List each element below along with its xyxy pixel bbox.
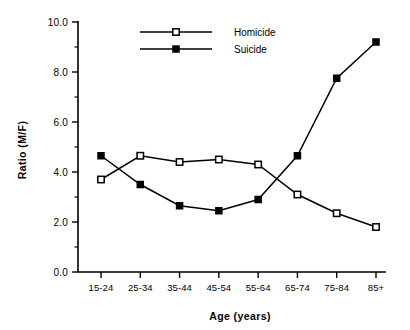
data-point-homicide: [98, 176, 104, 182]
y-tick-label: 6.0: [53, 117, 68, 128]
chart-axes: [78, 21, 386, 272]
y-tick-label: 2.0: [53, 217, 68, 228]
y-tick-label: 0.0: [53, 267, 68, 278]
data-point-homicide: [216, 156, 222, 162]
y-axis-label: Ratio (M/F): [16, 121, 28, 180]
data-point-suicide: [294, 153, 300, 159]
chart-figure: Ratio (M/F) Age (years) 0.02.04.06.08.01…: [0, 0, 410, 330]
data-point-suicide: [98, 153, 104, 159]
data-point-homicide: [373, 224, 379, 230]
data-point-suicide: [177, 203, 183, 209]
data-point-homicide: [176, 159, 182, 165]
x-tick-label: 35-44: [167, 282, 192, 293]
data-point-suicide: [216, 208, 222, 214]
data-point-homicide: [255, 161, 261, 167]
data-point-suicide: [373, 39, 379, 45]
data-point-homicide: [334, 210, 340, 216]
y-tick-label: 10.0: [48, 17, 69, 28]
data-point-homicide: [137, 153, 143, 159]
plot-area: [98, 39, 379, 230]
axis-lines: [78, 21, 386, 272]
y-tick-label: 8.0: [53, 67, 68, 78]
x-tick-label: 65-74: [285, 282, 310, 293]
legend-label-suicide[interactable]: Suicide: [234, 44, 267, 55]
x-tick-label: 45-54: [206, 282, 231, 293]
x-axis-label: Age (years): [209, 310, 271, 322]
legend-marker-homicide: [173, 29, 179, 35]
x-axis-ticks: 15-2425-3435-4445-5455-6465-7475-8485+: [89, 272, 385, 293]
x-tick-label: 55-64: [246, 282, 271, 293]
data-point-suicide: [334, 75, 340, 81]
line-chart-canvas: Ratio (M/F) Age (years) 0.02.04.06.08.01…: [0, 0, 410, 330]
chart-legend: HomicideSuicide: [140, 27, 276, 55]
legend-label-homicide[interactable]: Homicide: [234, 27, 276, 38]
x-tick-label: 15-24: [89, 282, 114, 293]
x-tick-label: 85+: [368, 282, 385, 293]
y-axis-ticks: 0.02.04.06.08.010.0: [48, 17, 78, 278]
data-point-suicide: [137, 182, 143, 188]
data-point-suicide: [255, 197, 261, 203]
x-tick-label: 25-34: [128, 282, 153, 293]
legend-marker-suicide: [173, 46, 179, 52]
data-point-homicide: [294, 191, 300, 197]
y-tick-label: 4.0: [53, 167, 68, 178]
x-tick-label: 75-84: [324, 282, 349, 293]
